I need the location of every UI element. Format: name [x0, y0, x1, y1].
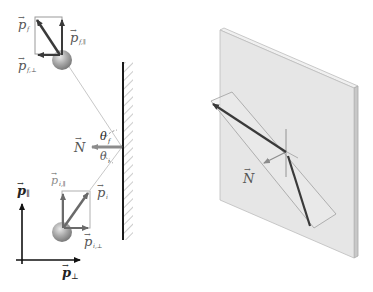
normal-label: N →	[73, 134, 86, 155]
final-momentum-label: p → f	[18, 13, 31, 33]
svg-text:→: →	[97, 181, 104, 190]
perpendicular-axis-label: p → ⊥	[62, 261, 79, 281]
initial-momentum-arrow	[64, 193, 88, 227]
svg-text:f,⊥: f,⊥	[26, 66, 37, 74]
initial-momentum-label: p → i	[97, 181, 108, 200]
angle-incidence-label: θ i	[100, 150, 110, 164]
svg-text:f: f	[107, 137, 112, 145]
svg-text:θ: θ	[100, 150, 107, 163]
svg-text:→: →	[244, 165, 251, 174]
parallel-axis-label: p → ∥	[17, 179, 30, 198]
initial-parallel-label: p → i,∥	[51, 170, 66, 187]
svg-text:→: →	[18, 13, 25, 22]
svg-text:∥: ∥	[26, 189, 30, 198]
right-panel-3d: N →	[211, 28, 358, 258]
plate-side-edge	[354, 86, 358, 258]
final-parallel-label: p → f,∥	[70, 26, 86, 46]
initial-state-ball-group: p → i p → i,∥ p → i,⊥	[51, 170, 108, 249]
svg-text:→: →	[84, 230, 91, 239]
wall	[123, 62, 133, 240]
wall-hatching	[124, 62, 133, 240]
svg-text:→: →	[70, 26, 77, 35]
trajectory-path	[66, 62, 122, 190]
initial-perpendicular-label: p → i,⊥	[84, 230, 102, 249]
svg-text:→: →	[18, 54, 25, 63]
svg-text:i,⊥: i,⊥	[93, 242, 102, 249]
svg-text:f,∥: f,∥	[78, 38, 86, 46]
svg-text:f: f	[26, 25, 31, 33]
svg-text:i: i	[106, 193, 108, 200]
svg-text:→: →	[17, 179, 24, 188]
svg-text:θ: θ	[100, 130, 107, 143]
reflection-diagram: N → θ f θ i p → f p → f,∥	[0, 0, 373, 292]
svg-text:i,∥: i,∥	[59, 180, 66, 187]
svg-text:→: →	[62, 261, 69, 270]
final-state-ball-group: p → f p → f,∥ p → f,⊥	[18, 13, 86, 74]
plate-face	[220, 30, 354, 258]
svg-text:i: i	[108, 157, 110, 164]
final-perpendicular-label: p → f,⊥	[18, 54, 37, 74]
left-panel-2d: N → θ f θ i p → f p → f,∥	[16, 13, 133, 281]
svg-text:⊥: ⊥	[71, 272, 79, 281]
final-momentum-arrow	[37, 20, 60, 55]
svg-text:→: →	[51, 170, 57, 178]
vector-arrow-accent: →	[75, 134, 82, 143]
